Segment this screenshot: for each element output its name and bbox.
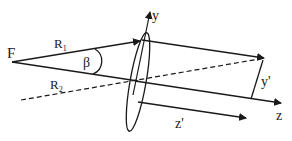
label-z-prime: z' bbox=[175, 116, 184, 131]
label-beta: β bbox=[83, 55, 90, 70]
label-z: z bbox=[276, 108, 282, 123]
label-y: y bbox=[152, 8, 159, 23]
optics-diagram: F R1 R2 β y z y' z' bbox=[0, 0, 292, 141]
ray-outgoing-upper bbox=[142, 40, 264, 58]
z-axis bbox=[135, 81, 281, 103]
ray-r1 bbox=[12, 41, 140, 62]
label-r2: R2 bbox=[50, 77, 63, 94]
label-f: F bbox=[7, 45, 15, 61]
diagram-canvas: F R1 R2 β y z y' z' bbox=[0, 0, 292, 141]
label-r1: R1 bbox=[54, 36, 67, 53]
z-prime-arrow bbox=[138, 102, 246, 118]
label-y-prime: y' bbox=[261, 74, 271, 89]
angle-arc bbox=[93, 49, 102, 74]
ray-r2 bbox=[12, 62, 138, 81]
